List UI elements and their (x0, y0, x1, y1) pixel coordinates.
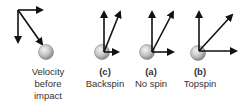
panel-topspin (191, 12, 237, 61)
ball-icon (39, 45, 54, 60)
resultant-velocity-arrow (199, 15, 232, 51)
panel-b-tag: (b) (180, 66, 220, 77)
panel-before-impact (18, 10, 54, 60)
panel-c-tag: (c) (85, 66, 125, 77)
panel-c-label: Backspin (80, 78, 130, 89)
panel-no-spin (140, 12, 174, 60)
panel-a-tag: (a) (131, 66, 171, 77)
panel-a-label: No spin (126, 78, 176, 89)
panel-b-label: Topspin (175, 78, 225, 89)
resultant-velocity-arrow (152, 12, 173, 52)
ball-icon (191, 46, 206, 61)
label-velocity-line2: before (26, 78, 70, 89)
panel-backspin (95, 12, 121, 60)
label-velocity-line1: Velocity (26, 66, 70, 77)
resultant-velocity-arrow (104, 12, 120, 52)
label-velocity-line3: impact (26, 90, 70, 101)
resultant-velocity-arrow (18, 10, 42, 44)
